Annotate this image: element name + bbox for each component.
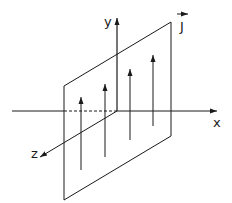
x-axis-label: x (213, 115, 221, 130)
current-sheet-diagram: y x z J (0, 0, 232, 203)
y-axis-label: y (104, 14, 112, 29)
z-axis-label: z (31, 146, 38, 161)
current-label: J (179, 19, 184, 34)
current-density-label: J (177, 14, 188, 34)
